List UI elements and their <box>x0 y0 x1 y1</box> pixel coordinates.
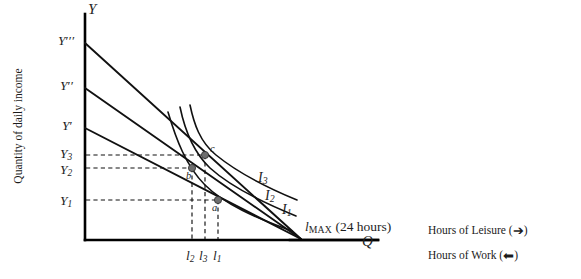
y-tick-base: Y <box>60 193 68 208</box>
legend-leisure-text: Hours of Leisure ( <box>428 224 513 236</box>
arrow-right-icon: ➔ <box>513 223 524 238</box>
diagram-canvas <box>0 0 581 279</box>
point-label-a: a <box>212 203 217 214</box>
y-tick-label-Y2prime: Y′′ <box>60 79 74 93</box>
y-tick-primes: ′ <box>70 118 73 133</box>
budget-line-2 <box>85 88 301 239</box>
y-tick-primes: ′′′ <box>66 33 76 48</box>
x-tick-label-l3: l3 <box>199 249 207 265</box>
y-tick-label-Y3: Y3 <box>60 147 72 163</box>
y-tick-base: Y <box>62 118 70 133</box>
point-marker-c <box>201 151 208 158</box>
legend-item-work: Hours of Work (⬅) <box>428 249 518 262</box>
legend-item-leisure: Hours of Leisure (➔) <box>428 224 527 237</box>
y-axis-name: Y <box>88 2 96 17</box>
x-endpoint-label: lMAX (24 hours) <box>305 220 391 235</box>
curve-sub: 1 <box>287 207 292 218</box>
point-label-c: c <box>210 144 215 155</box>
y-axis-title: Quantity of daily income <box>12 26 24 226</box>
y-tick-label-Y1prime: Y′ <box>62 119 73 133</box>
y-tick-sub: 3 <box>68 152 73 162</box>
axes <box>85 14 378 240</box>
x-tick-label-l1: l1 <box>213 249 221 265</box>
curve-sub: 2 <box>270 193 275 204</box>
x-tick-sub: 3 <box>203 254 208 264</box>
y-tick-base: Y <box>60 146 68 161</box>
lmax-note: (24 hours) <box>335 219 391 234</box>
x-axis-name: Q <box>362 234 373 249</box>
y-tick-primes: ′′ <box>68 78 75 93</box>
budget-line-3 <box>85 43 301 239</box>
y-tick-sub: 2 <box>68 168 73 178</box>
curve-sub: 3 <box>263 175 268 186</box>
y-tick-label-Y1: Y1 <box>60 194 72 210</box>
y-tick-label-Y3prime: Y′′′ <box>58 34 75 48</box>
curve-label-I1: I1 <box>282 203 292 218</box>
arrow-left-icon: ⬅ <box>503 248 514 263</box>
labour-supply-diagram: Quantity of daily income Y Q Y′′′ Y′′ Y′… <box>0 0 581 279</box>
legend-work-close: ) <box>514 249 518 261</box>
legend-work-text: Hours of Work ( <box>428 249 503 261</box>
x-tick-label-l2: l2 <box>186 249 194 265</box>
lmax-sub: MAX <box>309 224 332 235</box>
x-tick-sub: 2 <box>190 254 195 264</box>
y-tick-base: Y <box>60 162 68 177</box>
curve-label-I3: I3 <box>258 171 268 186</box>
y-tick-label-Y2: Y2 <box>60 163 72 179</box>
legend-leisure-close: ) <box>524 224 528 236</box>
budget-lines <box>85 43 301 239</box>
y-tick-base: Y <box>60 78 68 93</box>
y-tick-base: Y <box>58 33 66 48</box>
indifference-curves <box>168 105 297 231</box>
y-tick-sub: 1 <box>68 199 73 209</box>
curve-label-I2: I2 <box>265 189 275 204</box>
point-label-b: b <box>186 171 191 182</box>
x-tick-sub: 1 <box>217 254 222 264</box>
